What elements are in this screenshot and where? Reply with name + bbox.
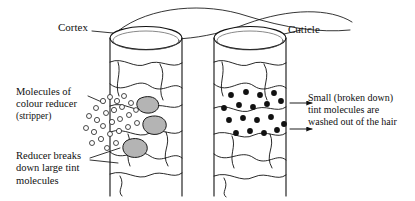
reducer-molecules-label: Molecules of colour reducer (stripper) [16,86,77,122]
cuticle-label: Cuticle [288,23,320,36]
reducer-breaks-label: Reducer breaks down large tint molecules [16,150,81,187]
hair-shaft-right [214,27,286,198]
diagram-canvas: Cortex Cuticle Molecules of colour reduc… [0,0,415,201]
cortex-label: Cortex [58,21,88,34]
breaks-leader-2 [90,160,118,163]
washed-out-label: Small (broken down) tint molecules are w… [308,92,397,127]
cortex-connector [92,31,113,33]
broken-tint-molecules [221,89,287,136]
